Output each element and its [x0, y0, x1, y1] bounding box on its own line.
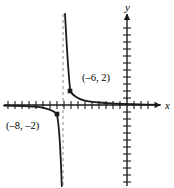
- point-label-upper: (–6, 2): [82, 73, 110, 84]
- y-axis-label: y: [125, 2, 130, 13]
- point-marker-upper: [68, 89, 73, 94]
- y-axis-arrow: [124, 14, 130, 21]
- curve-right-branch: [65, 14, 160, 105]
- graph-figure: y x (–6, 2) (–8, –2): [0, 0, 174, 188]
- curve-left-branch: [4, 106, 62, 186]
- point-marker-lower: [55, 112, 60, 117]
- graph-canvas: [0, 0, 174, 188]
- point-label-lower: (–8, –2): [6, 121, 39, 132]
- x-axis-label: x: [165, 100, 170, 111]
